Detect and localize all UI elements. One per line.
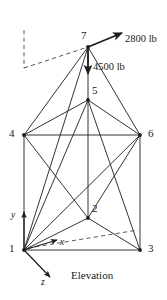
joint-dot-7 [86, 45, 90, 49]
load-2800-arrow [88, 33, 122, 47]
axis-label-x: x [60, 238, 64, 248]
node-label-7: 7 [81, 30, 87, 41]
node-label-3: 3 [148, 243, 154, 254]
node-label-5: 5 [92, 85, 98, 96]
node-label-1: 1 [9, 243, 15, 254]
truss-member-1-6 [24, 135, 140, 250]
node-label-4: 4 [9, 128, 15, 139]
joint-dot-5 [86, 98, 90, 102]
truss-diagram [0, 0, 167, 300]
truss-member-2-3 [88, 218, 140, 250]
axis-label-z: z [41, 278, 45, 288]
joint-dot-2 [86, 216, 90, 220]
axis-label-y: y [11, 211, 15, 221]
truss-member-4-5 [24, 100, 88, 135]
load-label-4500: 4500 lb [93, 62, 125, 73]
node-label-6: 6 [148, 128, 154, 139]
figure-canvas: 1 2 3 4 5 6 7 2800 lb 4500 lb y x z Elev… [0, 0, 167, 300]
joint-dot-6 [138, 133, 142, 137]
axis-z-arrow [24, 250, 50, 277]
joint-dot-4 [22, 133, 26, 137]
joint-dot-3 [138, 248, 142, 252]
truss-members [24, 47, 140, 250]
joint-dot-1 [22, 248, 26, 252]
dimension-leader-dashed [24, 47, 88, 68]
node-label-2: 2 [92, 203, 98, 214]
load-label-2800: 2800 lb [125, 34, 157, 45]
truss-member-1-2 [24, 218, 88, 250]
truss-member-5-6 [88, 100, 140, 135]
view-caption: Elevation [71, 270, 113, 281]
truss-member-1-7 [24, 47, 88, 250]
